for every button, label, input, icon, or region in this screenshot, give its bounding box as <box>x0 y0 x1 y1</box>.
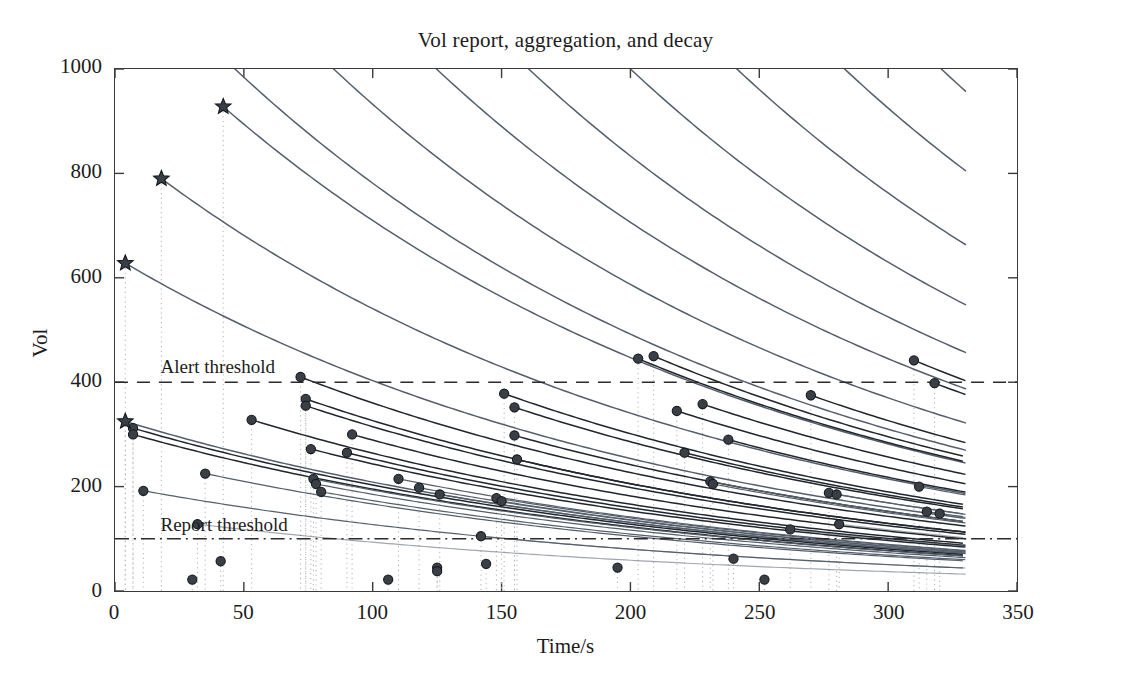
x-tick-label: 150 <box>461 600 541 625</box>
data-point-marker[interactable] <box>708 479 717 488</box>
data-point-marker[interactable] <box>216 557 225 566</box>
data-point-marker[interactable] <box>806 391 815 400</box>
y-axis-label: Vol <box>28 328 53 357</box>
data-point-marker[interactable] <box>384 575 393 584</box>
data-point-marker[interactable] <box>512 455 521 464</box>
report-threshold-label: Report threshold <box>160 514 287 536</box>
data-point-marker[interactable] <box>832 490 841 499</box>
data-point-marker[interactable] <box>634 354 643 363</box>
alert-threshold-label: Alert threshold <box>160 356 275 378</box>
decay-curve <box>115 69 965 389</box>
y-tick-label: 400 <box>0 368 102 393</box>
data-point-marker[interactable] <box>128 430 137 439</box>
data-point-marker[interactable] <box>909 356 918 365</box>
figure-root: Vol report, aggregation, and decay Vol T… <box>0 0 1131 685</box>
data-point-marker[interactable] <box>394 474 403 483</box>
x-tick-label: 200 <box>591 600 671 625</box>
data-point-marker[interactable] <box>914 482 923 491</box>
data-point-marker[interactable] <box>729 554 738 563</box>
data-point-marker[interactable] <box>348 430 357 439</box>
data-point-marker[interactable] <box>482 559 491 568</box>
data-point-marker[interactable] <box>139 486 148 495</box>
data-point-marker[interactable] <box>306 444 315 453</box>
decay-curve <box>115 69 965 450</box>
data-point-marker[interactable] <box>476 532 485 541</box>
x-tick-label: 250 <box>720 600 800 625</box>
x-tick-label: 350 <box>978 600 1058 625</box>
y-tick-label: 800 <box>0 159 102 184</box>
x-tick-label: 50 <box>203 600 283 625</box>
data-point-marker[interactable] <box>415 483 424 492</box>
decay-curve <box>914 360 966 380</box>
x-tick-label: 0 <box>74 600 154 625</box>
data-point-marker[interactable] <box>698 400 707 409</box>
data-point-marker[interactable] <box>680 448 689 457</box>
star-event-marker[interactable] <box>118 255 134 270</box>
decay-curve <box>115 69 965 305</box>
data-point-marker[interactable] <box>510 403 519 412</box>
y-tick-label: 600 <box>0 264 102 289</box>
data-point-marker[interactable] <box>724 435 733 444</box>
data-point-marker[interactable] <box>201 469 210 478</box>
data-point-marker[interactable] <box>500 389 509 398</box>
data-point-marker[interactable] <box>342 448 351 457</box>
data-point-marker[interactable] <box>296 372 305 381</box>
decay-curve <box>677 411 966 484</box>
data-point-marker[interactable] <box>613 563 622 572</box>
data-point-marker[interactable] <box>922 507 931 516</box>
chart-title: Vol report, aggregation, and decay <box>0 28 1131 53</box>
x-axis-label: Time/s <box>0 634 1131 659</box>
decay-curve <box>811 395 966 442</box>
data-point-marker[interactable] <box>188 575 197 584</box>
data-point-marker[interactable] <box>935 509 944 518</box>
data-point-marker[interactable] <box>760 575 769 584</box>
data-point-marker[interactable] <box>672 406 681 415</box>
decay-curve <box>306 406 966 535</box>
data-point-marker[interactable] <box>835 520 844 529</box>
data-point-marker[interactable] <box>930 379 939 388</box>
x-tick-label: 300 <box>849 600 929 625</box>
decay-curve <box>115 69 965 352</box>
data-point-marker[interactable] <box>247 415 256 424</box>
x-tick-label: 100 <box>332 600 412 625</box>
data-point-marker[interactable] <box>510 431 519 440</box>
data-point-marker[interactable] <box>435 490 444 499</box>
data-point-marker[interactable] <box>317 487 326 496</box>
data-point-marker[interactable] <box>433 567 442 576</box>
data-point-marker[interactable] <box>649 352 658 361</box>
data-point-marker[interactable] <box>497 497 506 506</box>
data-point-marker[interactable] <box>301 401 310 410</box>
y-tick-label: 1000 <box>0 54 102 79</box>
y-tick-label: 200 <box>0 473 102 498</box>
data-point-marker[interactable] <box>786 525 795 534</box>
